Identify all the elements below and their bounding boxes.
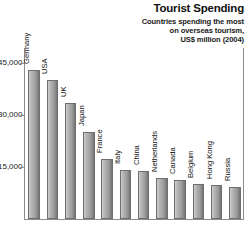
bar-germany	[28, 70, 39, 219]
y-axis-tick-mark-15000	[20, 167, 24, 168]
bar-group: Germany	[28, 48, 39, 219]
x-axis-label-usa: USA	[40, 58, 49, 74]
y-axis-tick-mark-30000	[20, 115, 24, 116]
y-axis-tick-label-15000: 15,000	[0, 162, 22, 171]
bar-netherlands	[156, 178, 167, 219]
x-axis-label-belgium: Belgium	[186, 151, 195, 178]
title-block: Tourist Spending Countries spending the …	[94, 2, 244, 45]
bar-canada	[174, 180, 185, 219]
x-axis-label-japan: Japan	[77, 105, 86, 126]
bars-container: GermanyUSAUKJapanFranceItalyChinaNetherl…	[25, 48, 244, 219]
bar-group: Russia	[229, 48, 240, 219]
y-axis-tick-label-30000: 30,000	[0, 110, 22, 119]
bar-group: USA	[47, 48, 58, 219]
y-axis-tick-label-45000: 45,000	[0, 58, 22, 67]
bar-group: Hong Kong	[211, 48, 222, 219]
x-axis-label-germany: Germany	[22, 33, 31, 64]
bar-belgium	[193, 184, 204, 219]
subtitle-line-3: US$ million (2004)	[94, 35, 244, 44]
bar-group: Italy	[120, 48, 131, 219]
bar-group: Canada	[174, 48, 185, 219]
bar-group: China	[138, 48, 149, 219]
bar-usa	[47, 80, 58, 219]
bar-china	[138, 171, 149, 219]
bar-group: Belgium	[193, 48, 204, 219]
bar-russia	[229, 187, 240, 219]
bar-japan	[83, 132, 94, 219]
chart-figure: Tourist Spending Countries spending the …	[0, 0, 248, 233]
bar-group: France	[101, 48, 112, 219]
subtitle-line-2: on overseas tourism,	[94, 26, 244, 35]
bar-hong-kong	[211, 185, 222, 219]
x-axis-label-canada: Canada	[168, 147, 177, 174]
bar-italy	[120, 170, 131, 219]
bar-france	[101, 159, 112, 219]
x-axis-label-uk: UK	[59, 86, 68, 97]
bar-group: UK	[65, 48, 76, 219]
x-axis-label-italy: Italy	[113, 150, 122, 164]
x-axis-label-hong-kong: Hong Kong	[205, 141, 214, 179]
subtitle-line-1: Countries spending the most	[94, 17, 244, 26]
x-axis-label-russia: Russia	[223, 158, 232, 181]
bar-group: Netherlands	[156, 48, 167, 219]
bar-group: Japan	[83, 48, 94, 219]
x-axis-label-france: France	[95, 129, 104, 153]
x-axis-label-china: China	[132, 145, 141, 165]
subtitle-block: Countries spending the most on overseas …	[94, 17, 244, 45]
page-title: Tourist Spending	[94, 2, 244, 15]
x-axis-label-netherlands: Netherlands	[150, 131, 159, 172]
bar-uk	[65, 103, 76, 219]
